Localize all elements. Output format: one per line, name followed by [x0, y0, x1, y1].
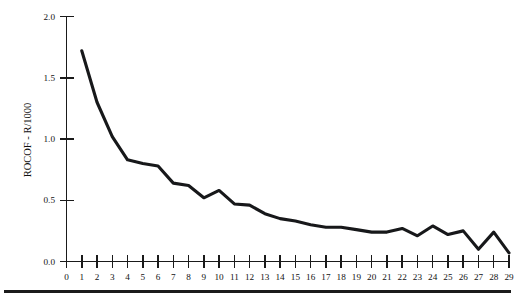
y-axis-title: ROCOF - R/1000: [22, 103, 33, 178]
x-tick-label: 14: [276, 272, 286, 282]
y-tick-label: 1.5: [44, 73, 56, 83]
x-tick-label: 24: [428, 272, 438, 282]
x-axis-tick-labels: 0123456789101112131415161718192021222324…: [64, 272, 514, 282]
x-tick-label: 11: [230, 272, 239, 282]
x-tick-label: 2: [95, 272, 100, 282]
x-tick-label: 18: [337, 272, 347, 282]
x-tick-label: 13: [260, 272, 270, 282]
x-tick-label: 27: [474, 272, 484, 282]
x-tick-label: 0: [64, 272, 69, 282]
x-tick-label: 8: [186, 272, 191, 282]
x-tick-label: 29: [504, 272, 514, 282]
x-tick-label: 19: [352, 272, 362, 282]
x-tick-label: 20: [367, 272, 377, 282]
x-tick-label: 5: [140, 272, 145, 282]
x-tick-label: 12: [245, 272, 255, 282]
x-tick-label: 4: [125, 272, 130, 282]
x-tick-label: 17: [321, 272, 331, 282]
x-tick-label: 26: [459, 272, 469, 282]
x-tick-label: 21: [382, 272, 392, 282]
y-tick-label: 0.5: [44, 195, 56, 205]
x-tick-label: 22: [398, 272, 408, 282]
x-tick-label: 6: [156, 272, 161, 282]
x-tick-label: 15: [291, 272, 301, 282]
x-tick-label: 1: [79, 272, 84, 282]
x-tick-label: 3: [110, 272, 115, 282]
rocof-line-chart: ROCOF - R/1000 0.0 0.5 1.0 1.5 2.0 01234…: [0, 0, 515, 301]
bottom-divider-rule: [4, 290, 511, 293]
y-axis-tick-labels: 0.0 0.5 1.0 1.5 2.0: [44, 12, 56, 267]
y-tick-label: 0.0: [44, 257, 56, 267]
x-tick-label: 23: [413, 272, 423, 282]
x-tick-label: 25: [443, 272, 453, 282]
x-tick-label: 10: [214, 272, 224, 282]
y-tick-label: 1.0: [44, 134, 56, 144]
x-tick-label: 16: [306, 272, 316, 282]
chart-figure: ROCOF - R/1000 0.0 0.5 1.0 1.5 2.0 01234…: [0, 0, 515, 301]
rocof-data-line: [82, 51, 509, 253]
x-tick-label: 9: [202, 272, 207, 282]
x-tick-label: 28: [489, 272, 499, 282]
x-tick-label: 7: [171, 272, 176, 282]
y-tick-label: 2.0: [44, 12, 56, 22]
